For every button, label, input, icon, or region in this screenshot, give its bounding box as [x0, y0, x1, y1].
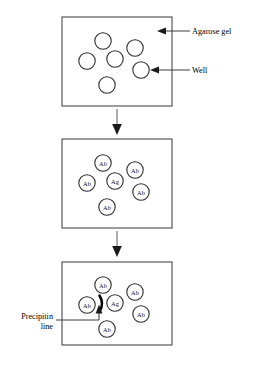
well-label-p3-right: Ab	[137, 311, 145, 318]
well-group-p3-bottom: Ab	[99, 321, 115, 337]
well-p1-right	[133, 62, 149, 78]
well-group-p2-top: Ab	[95, 155, 111, 171]
label-precipitin-line-1: Precipitin	[21, 312, 53, 321]
well-group-p2-bottom: Ab	[99, 199, 115, 215]
well-label-p3-upper-right: Ab	[131, 289, 139, 296]
well-label-p3-bottom: Ab	[103, 326, 111, 333]
well-label-p3-center: Ag	[111, 300, 120, 307]
well-group-p2-right: Ab	[133, 184, 149, 200]
arrow-panel2-to-panel3	[112, 231, 122, 257]
panel-2-loaded-gel: Ab Ab Ab Ag Ab Ab	[62, 139, 172, 228]
label-agarose-gel: Agarose gel	[192, 27, 232, 36]
well-label-p2-center: Ag	[111, 178, 120, 185]
well-p1-upper-right	[127, 40, 143, 56]
well-label-p3-top: Ab	[99, 282, 107, 289]
well-label-p2-upper-right: Ab	[131, 167, 139, 174]
well-group-p3-center: Ag	[107, 295, 123, 311]
well-group-p3-upper-right: Ab	[127, 284, 143, 300]
well-group-p3-right: Ab	[133, 306, 149, 322]
well-label-p2-bottom: Ab	[103, 204, 111, 211]
well-p1-center	[107, 51, 123, 67]
arrow-panel1-to-panel2	[112, 109, 122, 135]
arrow-head-flow-2	[112, 246, 122, 257]
well-group-p2-left: Ab	[79, 175, 95, 191]
well-group-p3-top: Ab	[95, 277, 111, 293]
well-label-p2-top: Ab	[99, 160, 107, 167]
well-group-p2-center: Ag	[107, 173, 123, 189]
label-precipitin-line-2: line	[41, 322, 54, 331]
panel-3-precipitin-formed: Ab Ab Ab Ag Ab Ab	[62, 262, 172, 345]
panel-1-empty-gel	[62, 17, 172, 106]
arrow-head-flow-1	[112, 124, 122, 135]
well-group-p3-left: Ab	[79, 297, 95, 313]
well-p1-left	[79, 53, 95, 69]
well-label-p2-right: Ab	[137, 189, 145, 196]
well-group-p2-upper-right: Ab	[127, 162, 143, 178]
well-label-p2-left: Ab	[83, 180, 91, 187]
immunodiffusion-diagram: Agarose gel Well Ab Ab	[0, 0, 261, 365]
well-label-p3-left: Ab	[83, 302, 91, 309]
callout-well: Well	[150, 66, 208, 75]
well-p1-bottom	[99, 77, 115, 93]
diagram-canvas: Agarose gel Well Ab Ab	[0, 0, 261, 365]
well-p1-top	[95, 33, 111, 49]
label-well: Well	[192, 66, 208, 75]
